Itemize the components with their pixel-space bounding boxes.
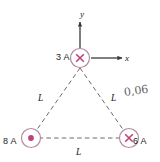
dot-icon-bottom-left (28, 135, 34, 141)
wire-symbol-top (71, 49, 90, 68)
wire-label-top: 3 A (56, 53, 70, 62)
wire-symbol-bottom-left (22, 129, 41, 148)
x-axis-label: x (125, 54, 129, 63)
physics-figure-three-current-wires: y x 3 A 8 A 6 A L L L 0,06 (0, 0, 160, 162)
side-length-label-left: L (38, 94, 43, 104)
wire-label-bottom-left: 8 A (3, 137, 17, 146)
triangle-side-right (80, 68, 129, 138)
handwritten-annotation: 0,06 (123, 84, 149, 98)
y-axis-label: y (80, 10, 84, 19)
side-length-label-bottom: L (76, 148, 81, 158)
side-length-label-right: L (111, 94, 116, 104)
wire-label-bottom-right: 6 A (133, 137, 147, 146)
